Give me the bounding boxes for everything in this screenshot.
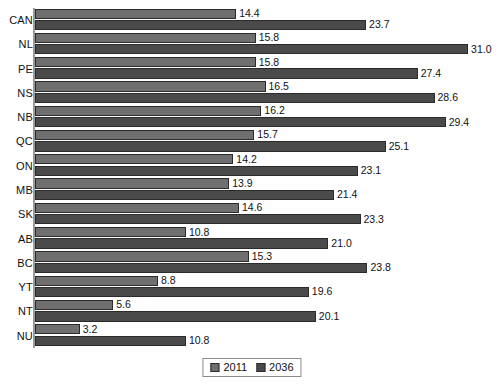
chart-row: PE15.827.4: [0, 57, 504, 81]
chart-row: ON14.223.1: [0, 154, 504, 178]
bar-wrapper: 14.2: [35, 154, 504, 164]
bar-wrapper: 16.5: [35, 81, 504, 91]
bar-wrapper: 5.6: [35, 300, 504, 310]
bar-group: 13.921.4: [35, 178, 504, 201]
bar-wrapper: 14.6: [35, 203, 504, 213]
bar-value-label: 19.6: [309, 285, 332, 298]
bar-value-label: 14.2: [233, 153, 256, 166]
category-label: NB: [17, 105, 33, 129]
bar-2011-NT: [35, 300, 113, 310]
bar-wrapper: 23.8: [35, 263, 504, 273]
bar-2011-BC: [35, 251, 249, 261]
bar-2036-QC: [35, 141, 386, 151]
bar-2036-ON: [35, 166, 358, 176]
bar-wrapper: 21.0: [35, 238, 504, 248]
bar-wrapper: 25.1: [35, 141, 504, 151]
chart-row: NL15.831.0: [0, 32, 504, 56]
bar-2011-NL: [35, 33, 256, 43]
chart-row: NB16.229.4: [0, 105, 504, 129]
bar-2011-YT: [35, 276, 158, 286]
chart-row: NS16.528.6: [0, 81, 504, 105]
bar-group: 3.210.8: [35, 324, 504, 347]
bar-value-label: 31.0: [468, 43, 491, 56]
bar-wrapper: 14.4: [35, 9, 504, 19]
bar-wrapper: 8.8: [35, 276, 504, 286]
bar-2011-CAN: [35, 9, 236, 19]
category-label: NT: [18, 299, 33, 323]
legend-label: 2011: [223, 361, 247, 373]
bar-group: 15.323.8: [35, 251, 504, 274]
category-label: QC: [16, 129, 33, 153]
bar-group: 14.423.7: [35, 9, 504, 32]
bar-value-label: 23.7: [366, 18, 389, 31]
category-label: AB: [18, 227, 33, 251]
legend-swatch-icon: [256, 363, 265, 372]
bar-2011-QC: [35, 130, 254, 140]
bar-wrapper: 15.8: [35, 57, 504, 67]
category-label: PE: [18, 57, 33, 81]
bar-value-label: 27.4: [418, 67, 441, 80]
bar-value-label: 16.2: [261, 104, 284, 117]
bar-wrapper: 23.3: [35, 214, 504, 224]
bar-2036-AB: [35, 238, 328, 248]
legend-label: 2036: [269, 361, 293, 373]
bar-group: 15.827.4: [35, 57, 504, 80]
bar-2036-NS: [35, 93, 435, 103]
bar-value-label: 15.8: [256, 31, 279, 44]
legend-swatch-icon: [210, 363, 219, 372]
bar-value-label: 10.8: [186, 226, 209, 239]
bar-group: 14.623.3: [35, 203, 504, 226]
bar-value-label: 15.7: [254, 128, 277, 141]
bar-2011-NU: [35, 324, 80, 334]
bar-value-label: 8.8: [158, 274, 176, 287]
chart-row: AB10.821.0: [0, 227, 504, 251]
category-label: SK: [18, 202, 33, 226]
bar-chart: CAN14.423.7NL15.831.0PE15.827.4NS16.528.…: [0, 0, 504, 387]
bar-2036-NT: [35, 311, 316, 321]
bar-value-label: 10.8: [186, 334, 209, 347]
category-rows: CAN14.423.7NL15.831.0PE15.827.4NS16.528.…: [0, 8, 504, 348]
bar-wrapper: 23.1: [35, 166, 504, 176]
bar-value-label: 25.1: [386, 140, 409, 153]
bar-2036-SK: [35, 214, 361, 224]
bar-2036-BC: [35, 263, 367, 273]
bar-group: 14.223.1: [35, 154, 504, 177]
bar-wrapper: 29.4: [35, 117, 504, 127]
plot-area: CAN14.423.7NL15.831.0PE15.827.4NS16.528.…: [0, 8, 504, 348]
bar-2011-PE: [35, 57, 256, 67]
bar-2011-NS: [35, 81, 266, 91]
bar-wrapper: 19.6: [35, 287, 504, 297]
chart-row: CAN14.423.7: [0, 8, 504, 32]
bar-2011-AB: [35, 227, 186, 237]
bar-2011-MB: [35, 178, 229, 188]
bar-wrapper: 20.1: [35, 311, 504, 321]
bar-wrapper: 13.9: [35, 178, 504, 188]
bar-value-label: 23.8: [367, 261, 390, 274]
bar-value-label: 21.4: [334, 188, 357, 201]
bar-value-label: 21.0: [328, 237, 351, 250]
bar-2036-CAN: [35, 20, 366, 30]
bar-group: 8.819.6: [35, 276, 504, 299]
bar-2036-YT: [35, 287, 309, 297]
category-label: YT: [19, 275, 33, 299]
bar-wrapper: 10.8: [35, 336, 504, 346]
bar-2036-NB: [35, 117, 446, 127]
category-label: BC: [17, 251, 33, 275]
bar-wrapper: 23.7: [35, 20, 504, 30]
bar-value-label: 15.3: [249, 250, 272, 263]
bar-value-label: 3.2: [80, 323, 98, 336]
bar-2036-MB: [35, 190, 334, 200]
chart-row: YT8.819.6: [0, 275, 504, 299]
bar-wrapper: 15.8: [35, 33, 504, 43]
category-label: MB: [16, 178, 33, 202]
bar-2036-NU: [35, 336, 186, 346]
bar-value-label: 14.6: [239, 201, 262, 214]
chart-legend: 20112036: [202, 358, 301, 377]
bar-wrapper: 27.4: [35, 68, 504, 78]
bar-value-label: 14.4: [236, 7, 259, 20]
bar-value-label: 13.9: [229, 177, 252, 190]
bar-2011-NB: [35, 106, 261, 116]
bar-group: 15.831.0: [35, 33, 504, 56]
bar-2036-NL: [35, 44, 468, 54]
bar-value-label: 15.8: [256, 56, 279, 69]
